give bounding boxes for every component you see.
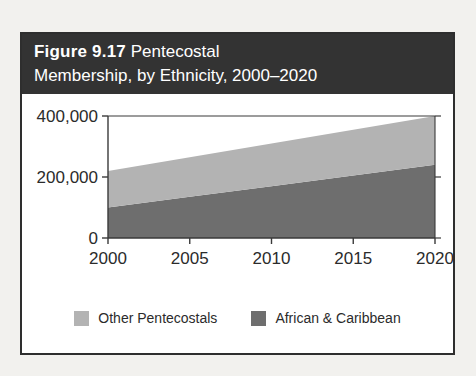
legend-swatch-african-caribbean bbox=[251, 311, 266, 326]
figure-container: Figure 9.17 Pentecostal Membership, by E… bbox=[20, 32, 455, 355]
y-tick-label: 200,000 bbox=[37, 168, 98, 187]
legend-item-other-pentecostals: Other Pentecostals bbox=[74, 310, 217, 326]
x-tick-label: 2010 bbox=[253, 249, 291, 268]
chart-legend: Other Pentecostals African & Caribbean bbox=[22, 310, 453, 326]
legend-item-african-caribbean: African & Caribbean bbox=[251, 310, 400, 326]
chart-plot-areas bbox=[108, 116, 435, 238]
legend-label-african-caribbean: African & Caribbean bbox=[275, 310, 400, 326]
legend-label-other-pentecostals: Other Pentecostals bbox=[98, 310, 217, 326]
figure-number-label: Figure 9.17 bbox=[34, 42, 126, 61]
caption-line-1: Figure 9.17 Pentecostal bbox=[34, 40, 441, 64]
x-axis-tick-labels: 20002005201020152020 bbox=[89, 249, 453, 268]
caption-text-part-1: Pentecostal bbox=[131, 42, 220, 61]
x-tick-label: 2000 bbox=[89, 249, 127, 268]
x-tick-label: 2020 bbox=[416, 249, 453, 268]
y-tick-label: 0 bbox=[89, 229, 98, 248]
x-tick-label: 2005 bbox=[171, 249, 209, 268]
y-axis-tick-labels: 0200,000400,000 bbox=[37, 107, 98, 248]
legend-swatch-other-pentecostals bbox=[74, 311, 89, 326]
y-tick-label: 400,000 bbox=[37, 107, 98, 126]
x-tick-label: 2015 bbox=[334, 249, 372, 268]
caption-line-2: Membership, by Ethnicity, 2000–2020 bbox=[34, 64, 441, 88]
chart-region: 0200,000400,000 20002005201020152020 Oth… bbox=[22, 94, 453, 353]
figure-caption-band: Figure 9.17 Pentecostal Membership, by E… bbox=[22, 34, 453, 94]
